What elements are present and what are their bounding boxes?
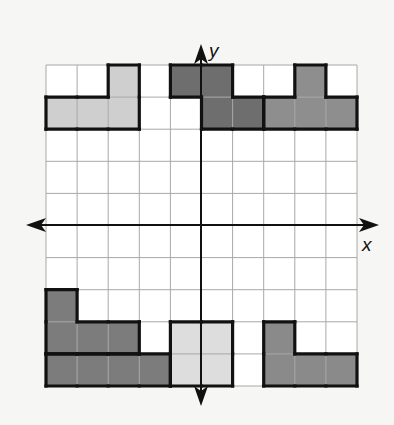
top-left-light-l-shape-cell — [77, 97, 109, 130]
top-center-dark-z-shape-cell — [202, 97, 234, 130]
bottom-right-medium-l-shape-cell — [326, 354, 358, 387]
top-left-light-l-shape-cell — [108, 97, 140, 130]
bottom-center-light-square-cell — [170, 322, 202, 355]
bottom-center-light-square-cell — [170, 354, 202, 387]
top-left-light-l-shape-cell — [108, 65, 140, 98]
coordinate-grid-diagram — [0, 0, 394, 425]
bottom-left-dark-bar-cell — [108, 354, 140, 387]
bottom-right-medium-l-shape-cell — [295, 354, 327, 387]
bottom-left-dark-bar-cell — [77, 354, 109, 387]
y-axis-label: y — [209, 40, 219, 62]
top-right-medium-t-shape-cell — [295, 97, 327, 130]
top-right-medium-t-shape-cell — [264, 97, 296, 130]
bottom-left-dark-bar-cell — [46, 354, 78, 387]
bottom-center-light-square-cell — [202, 354, 234, 387]
top-right-medium-t-shape-cell — [326, 97, 358, 130]
top-center-dark-z-shape-cell — [233, 97, 265, 130]
bottom-left-dark-l-shape-cell — [46, 290, 78, 323]
bottom-center-light-square-cell — [202, 322, 234, 355]
top-center-dark-z-shape-cell — [202, 65, 234, 98]
bottom-left-dark-l-shape-cell — [108, 322, 140, 355]
top-center-dark-z-shape-cell — [170, 65, 202, 98]
x-axis-label: x — [362, 234, 372, 256]
top-right-medium-t-shape-cell — [295, 65, 327, 98]
bottom-right-medium-l-shape-cell — [264, 322, 296, 355]
bottom-left-dark-l-shape-cell — [77, 322, 109, 355]
bottom-left-dark-l-shape-cell — [46, 322, 78, 355]
bottom-left-dark-bar-cell — [139, 354, 171, 387]
top-left-light-l-shape-cell — [46, 97, 78, 130]
bottom-right-medium-l-shape-cell — [264, 354, 296, 387]
